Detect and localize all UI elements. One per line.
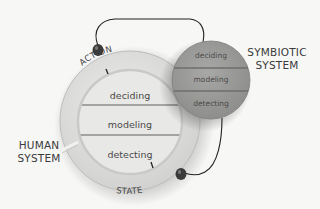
- human-layer-deciding: deciding: [110, 90, 150, 101]
- knob-highlight: [178, 170, 181, 174]
- top-connector-wire: [96, 19, 204, 46]
- symbiotic-label-line2: SYSTEM: [244, 59, 310, 72]
- state-ring-label: STATE: [116, 185, 144, 197]
- human-system-label: HUMAN SYSTEM: [12, 139, 66, 165]
- symbiotic-layer-modeling: modeling: [194, 75, 229, 84]
- symbiotic-system-label: SYMBIOTIC SYSTEM: [244, 46, 310, 72]
- human-label-line1: HUMAN: [12, 139, 66, 152]
- human-label-line2: SYSTEM: [12, 152, 66, 165]
- state-connector-knob-icon: [176, 168, 187, 180]
- human-layer-detecting: detecting: [107, 149, 152, 160]
- symbiotic-label-line1: SYMBIOTIC: [244, 46, 310, 59]
- knob-highlight: [95, 46, 98, 50]
- human-symbiotic-system-diagram: deciding modeling detecting ACTION STATE…: [0, 0, 320, 209]
- symbiotic-layer-deciding: deciding: [195, 51, 227, 60]
- human-layer-modeling: modeling: [108, 119, 152, 130]
- action-connector-knob-icon: [93, 44, 104, 56]
- symbiotic-layer-detecting: detecting: [193, 99, 229, 108]
